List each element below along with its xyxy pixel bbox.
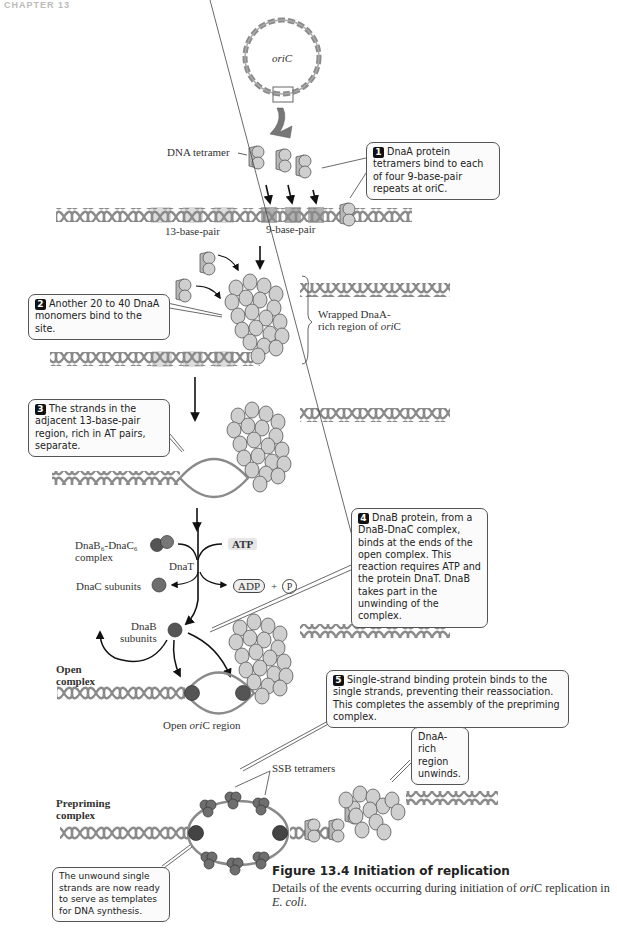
separated-strands xyxy=(180,459,248,497)
callout-step-3: 3The strands in the adjacent 13-base-pai… xyxy=(28,399,170,457)
adp-label: ADP xyxy=(233,579,265,593)
step-number-badge: 5 xyxy=(333,675,344,686)
ssb-tetramer xyxy=(253,852,269,869)
dna-strand xyxy=(52,471,180,485)
dnaa-complex xyxy=(227,402,291,492)
open-oric-region-label: Open oriC region xyxy=(163,719,241,731)
figure-caption-body: Details of the events occurring during i… xyxy=(272,881,612,909)
dnaa-tetramer xyxy=(296,155,311,178)
dnat-label: DnaT xyxy=(169,560,194,572)
dnab-helicase xyxy=(273,826,288,841)
ssb-tetramer xyxy=(200,800,216,817)
dnaa-tetramer xyxy=(176,279,191,302)
plus-sign: + xyxy=(271,580,277,592)
replication-diagram xyxy=(0,0,617,930)
dnab-subunits-label: DnaBsubunits xyxy=(120,620,157,644)
figure-caption-title: Figure 13.4 Initiation of replication xyxy=(272,864,510,878)
dna-strand xyxy=(300,283,450,297)
step-number-badge: 1 xyxy=(373,147,384,158)
dna-strand xyxy=(56,208,412,222)
dna-tetramer-label: DNA tetramer xyxy=(167,146,230,158)
dnaa-tetramer xyxy=(200,252,215,275)
dnab-helicase xyxy=(189,826,204,841)
13bp-label: 13-base-pair xyxy=(165,225,220,237)
step-number-badge: 2 xyxy=(35,299,46,310)
ssb-tetramers-label: SSB tetramers xyxy=(272,762,335,774)
dnab-dnac-complex-label: DnaB₆-DnaC₆complex xyxy=(75,539,138,563)
dna-strand xyxy=(406,791,498,805)
dnaa-tetramer xyxy=(276,149,291,172)
ssb-tetramer xyxy=(253,798,269,815)
dnaa-complex xyxy=(225,274,289,364)
dna-strand xyxy=(300,408,450,422)
step-number-badge: 3 xyxy=(35,404,46,415)
9bp-label: 9-base-pair xyxy=(266,223,315,235)
zoom-arrow xyxy=(270,108,292,138)
open-complex-label: Opencomplex xyxy=(56,663,95,687)
dnab-subunit xyxy=(168,623,182,637)
callout-step-5: 5Single-strand binding protein binds to … xyxy=(326,670,569,728)
ssb-tetramer xyxy=(227,858,243,875)
prepriming-complex-label: Preprimingcomplex xyxy=(56,797,110,821)
callout-step-1: 1DnaA protein tetramers bind to each of … xyxy=(366,142,500,200)
callout-dnaa-unwinds: DnaA-rich region unwinds. xyxy=(411,727,469,785)
dnac-subunits-label: DnaC subunits xyxy=(76,580,141,592)
callout-step-2: 2Another 20 to 40 DnaA monomers bind to … xyxy=(28,294,170,340)
ssb-tetramer xyxy=(201,852,217,869)
dnac-subunit xyxy=(152,578,166,592)
ssb-tetramer xyxy=(225,792,241,809)
callout-templates-ready: The unwound single strands are now ready… xyxy=(52,867,170,922)
callout-step-4: 4DnaB protein, from a DnaB-DnaC complex,… xyxy=(351,508,488,628)
dnaa-tetramer xyxy=(249,146,264,169)
dnac-protein xyxy=(161,536,174,549)
dna-strand xyxy=(60,826,188,840)
dnab-bound xyxy=(236,686,251,701)
phosphate-label: P xyxy=(282,579,297,594)
dnab-bound xyxy=(185,686,200,701)
dnaa-tetramer xyxy=(329,819,344,842)
oric-label: oriC xyxy=(272,52,292,64)
wrapped-region-label: Wrapped DnaA- rich region of oriC xyxy=(318,308,401,332)
step-number-badge: 4 xyxy=(358,513,369,524)
dna-strand xyxy=(50,352,260,366)
dna-strand xyxy=(57,686,185,700)
atp-label: ATP xyxy=(228,538,257,550)
